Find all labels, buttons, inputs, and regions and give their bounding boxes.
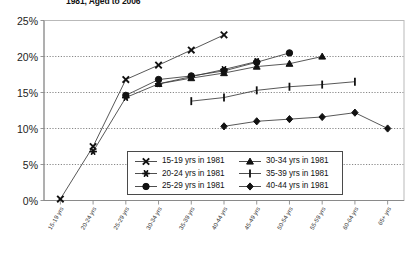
legend-item[interactable]: 25-29 yrs in 1981 [134,180,224,193]
x-axis-tick-label: 50-54 yrs [276,206,294,231]
y-axis-tick-label: 0% [23,195,38,207]
asterisk-marker [134,168,158,179]
cross-x-marker [155,62,161,68]
vertical-bar-marker [238,168,262,179]
legend-column-left: 15-19 yrs in 198120-24 yrs in 198125-29 … [134,155,224,193]
diamond-marker [254,118,260,125]
series-asterisk-marker [89,58,260,154]
x-axis-tick-label: 65+ yrs [377,206,392,226]
legend-item[interactable]: 40-44 yrs in 1981 [238,180,328,193]
series-circle-marker [123,50,293,99]
legend-item-label: 40-44 yrs in 1981 [266,182,328,190]
legend-item-label: 20-24 yrs in 1981 [162,170,224,178]
series-line [93,62,257,152]
triangle-marker [319,53,326,59]
x-axis-tick-label: 35-39 yrs [178,206,196,231]
x-axis-tick-label: 15-19 yrs [47,206,65,231]
diamond-marker [247,183,253,190]
chart-plot-area: 0%5%10%15%20%25% 15-19 yrs20-24 yrs25-29… [0,0,411,260]
x-axis-tick-label: 30-34 yrs [145,206,163,231]
legend-item-label: 25-29 yrs in 1981 [162,182,224,190]
circle-marker [286,50,292,56]
y-axis-tick-label: 15% [17,87,38,99]
diamond-marker [319,113,325,120]
circle-marker [123,92,129,98]
asterisk-marker [142,171,149,177]
cross-x-marker [188,47,194,53]
chart-container: 1981, Aged to 2006 0%5%10%15%20%25% 15-1… [0,0,411,260]
y-axis-tick-label: 25% [17,15,38,27]
diamond-marker [221,123,227,130]
x-axis-tick-label: 20-24 yrs [80,206,98,231]
circle-marker [134,181,158,192]
legend-item[interactable]: 30-34 yrs in 1981 [238,155,328,168]
x-axis-tick-label: 60-64 yrs [342,206,360,231]
cross-x-marker [221,32,227,38]
legend-item[interactable]: 35-39 yrs in 1981 [238,168,328,181]
y-axis-tick-labels: 0%5%10%15%20%25% [17,15,38,207]
diamond-marker [286,116,292,123]
triangle-marker [238,156,262,167]
y-axis-tick-label: 5% [23,159,38,171]
cross-x-marker [134,156,158,167]
y-axis-tick-label: 20% [17,51,38,63]
x-axis-tick-labels: 15-19 yrs20-24 yrs25-29 yrs30-34 yrs35-3… [47,206,392,231]
x-axis-tick-label: 25-29 yrs [112,206,130,231]
series-line [191,82,355,101]
legend-item-label: 35-39 yrs in 1981 [266,170,328,178]
y-axis-tick-label: 10% [17,123,38,135]
cross-x-marker [123,76,129,82]
diamond-marker [352,109,358,116]
series-line [159,57,323,84]
x-axis-tick-label: 45-49 yrs [243,206,261,231]
legend-item[interactable]: 15-19 yrs in 1981 [134,155,224,168]
series-vertical-bar-marker [191,78,355,105]
diamond-marker [384,125,390,132]
circle-marker [143,183,149,189]
legend-column-right: 30-34 yrs in 198135-39 yrs in 198140-44 … [238,155,328,193]
legend-item-label: 30-34 yrs in 1981 [266,157,328,165]
series-triangle-marker [155,53,325,86]
series-line [126,53,290,95]
legend-item[interactable]: 20-24 yrs in 1981 [134,168,224,181]
legend-item-label: 15-19 yrs in 1981 [162,157,224,165]
series-line [224,113,388,129]
x-axis-tick-label: 40-44 yrs [211,206,229,231]
x-axis-tick-label: 55-59 yrs [309,206,327,231]
diamond-marker [238,181,262,192]
chart-legend: 15-19 yrs in 198120-24 yrs in 198125-29 … [127,151,343,195]
